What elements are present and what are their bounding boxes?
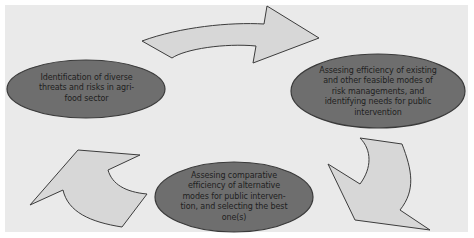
node-label-line: risk managements, and <box>311 87 446 98</box>
curved-arrow-right-icon <box>142 6 319 63</box>
node-label-line: modes for public interven- <box>174 192 294 203</box>
node-label-line: Identification of diverse <box>27 73 147 84</box>
curved-arrow-down-icon <box>328 138 430 230</box>
node-label-line: tion, and selecting the best <box>174 202 294 213</box>
node-label-line: identifying needs for public <box>311 97 446 108</box>
node-label-line: efficiency of alternative <box>174 181 294 192</box>
node-label-line: intervention <box>311 108 446 119</box>
node-label: Identification of diverse threats and ri… <box>27 73 147 105</box>
node-label-line: food sector <box>27 94 147 105</box>
node-label-line: Assesing efficiency of existing <box>311 66 446 77</box>
node-assessing-comparative: Assesing comparative efficiency of alter… <box>155 163 313 231</box>
node-label-line: Assesing comparative <box>174 171 294 182</box>
node-label: Assesing comparative efficiency of alter… <box>174 171 294 224</box>
node-label-line: threats and risks in agri- <box>27 83 147 94</box>
curved-arrow-up-icon <box>30 150 147 227</box>
node-label-line: one(s) <box>174 213 294 224</box>
node-identification: Identification of diverse threats and ri… <box>8 60 165 117</box>
node-label: Assesing efficiency of existing and othe… <box>311 66 446 119</box>
node-assessing-efficiency: Assesing efficiency of existing and othe… <box>292 56 464 128</box>
node-label-line: and other feasible modes of <box>311 76 446 87</box>
